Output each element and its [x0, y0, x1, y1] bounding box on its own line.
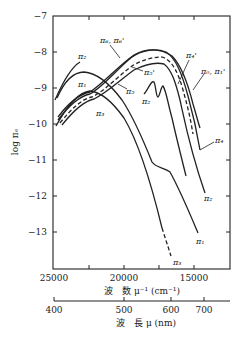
x-tick-labels: 25000 20000 15000 — [40, 273, 209, 283]
label-pi1-bottom: π₁ — [195, 237, 204, 246]
x2-tick-label: 700 — [195, 305, 212, 315]
label-pi2-wiggle: π₂ — [141, 97, 150, 106]
x-tick-label: 25000 — [40, 273, 69, 283]
x-tick-label: 20000 — [110, 273, 139, 283]
y-tick-label: −7 — [34, 11, 48, 21]
label-pi5p: π₅' — [143, 68, 155, 77]
y-tick-labels: −7 −8 −9 −10 −11 −12 −13 — [28, 11, 47, 237]
curve-labels: π₂ π₁ π₃ π₆, π₆' π₅' π₅ π₂ π₄' π₀, π₁' π… — [77, 36, 225, 267]
label-pi6-top: π₆, π₆' — [99, 36, 124, 45]
wavelength-axis — [54, 297, 230, 301]
x2-tick-label: 400 — [45, 305, 62, 315]
x2-tick-labels: 400 500 600 700 — [45, 305, 212, 315]
y-tick-label: −12 — [28, 191, 47, 201]
label-pi2-left: π₂ — [77, 52, 86, 61]
x2-tick-label: 600 — [162, 305, 179, 315]
y-axis-title: log πₑ — [10, 128, 20, 155]
photoconductivity-chart: −7 −8 −9 −10 −11 −12 −13 log πₑ 25000 20… — [0, 0, 239, 339]
label-pi4p: π₄' — [185, 51, 197, 60]
label-pi3-bottom: π₃ — [172, 258, 181, 267]
y-tick-label: −11 — [28, 155, 47, 165]
x-axis-title: 波 数 μ⁻¹ (cm⁻¹) — [104, 285, 180, 296]
curve-pi3 — [56, 91, 162, 228]
label-pi4: π₄ — [214, 136, 223, 145]
label-pi0-pi1p: π₀, π₁' — [200, 67, 225, 76]
y-tick-label: −9 — [34, 83, 48, 93]
x2-tick-label: 500 — [115, 305, 132, 315]
y-tick-label: −10 — [28, 119, 47, 129]
y-axis-ticks — [53, 52, 230, 232]
x2-axis-title: 波 長 μ (nm) — [116, 317, 176, 328]
label-pi1-left: π₁ — [77, 80, 86, 89]
y-tick-label: −8 — [34, 47, 48, 57]
label-pi2-right: π₂ — [203, 194, 212, 203]
curve-pi2-wiggle — [144, 82, 186, 176]
curve-pi3-dashed — [162, 228, 171, 256]
y-tick-label: −13 — [28, 227, 47, 237]
x-tick-label: 15000 — [180, 273, 209, 283]
label-pi3-mid: π₃ — [95, 109, 104, 118]
label-pi5: π₅ — [125, 87, 135, 96]
